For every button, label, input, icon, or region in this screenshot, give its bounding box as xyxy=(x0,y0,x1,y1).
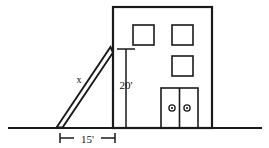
ladder-shape xyxy=(57,47,114,128)
base-label: 15' xyxy=(81,133,94,145)
doorknob-left-center-icon xyxy=(171,107,173,109)
height-label: 20' xyxy=(120,79,133,91)
window-middle-right xyxy=(172,56,193,76)
doorknob-right-center-icon xyxy=(186,107,188,109)
window-top-left xyxy=(133,25,154,45)
figure-canvas: 20' 15' x xyxy=(0,0,269,148)
building-outline xyxy=(113,7,212,128)
hypotenuse-label: x xyxy=(77,74,82,85)
window-top-right xyxy=(172,25,193,45)
geometry-diagram: 20' 15' x xyxy=(0,0,269,148)
